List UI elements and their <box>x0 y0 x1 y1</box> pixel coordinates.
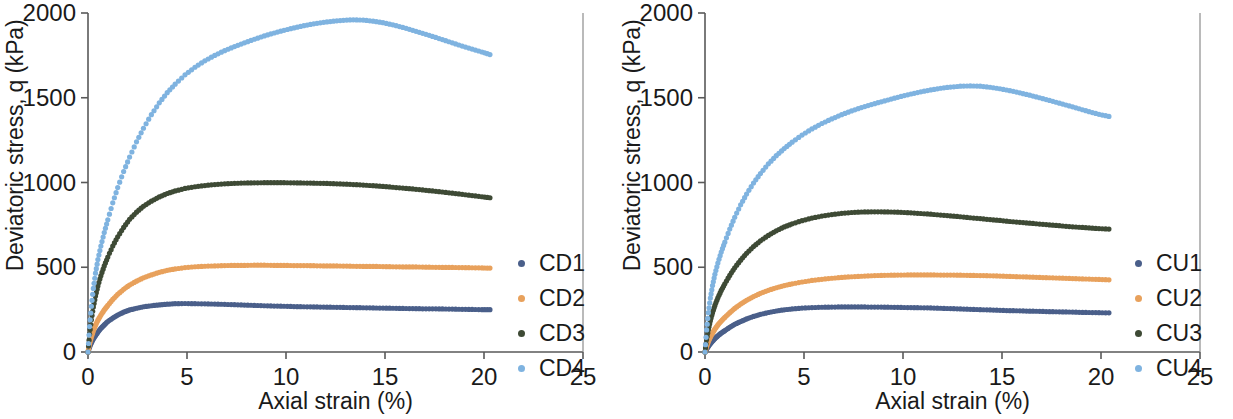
data-point <box>705 322 710 327</box>
data-point <box>89 298 94 303</box>
legend-item-cd4[interactable]: CD4 <box>518 351 585 386</box>
legend-marker-icon <box>518 295 525 302</box>
legend-label: CU3 <box>1156 322 1202 345</box>
y-tick-label: 1000 <box>23 169 76 196</box>
data-point <box>1106 310 1111 315</box>
data-point <box>87 324 92 329</box>
legend-label: CD2 <box>539 287 585 310</box>
legend-item-cu4[interactable]: CU4 <box>1135 351 1202 386</box>
data-point <box>127 154 132 159</box>
legend-item-cd1[interactable]: CD1 <box>518 246 585 281</box>
series-cu3 <box>702 209 1111 354</box>
data-point <box>487 266 492 271</box>
y-tick-label: 1000 <box>640 169 693 196</box>
data-point <box>105 217 110 222</box>
legend-label: CU2 <box>1156 287 1202 310</box>
data-point <box>146 117 151 122</box>
data-point <box>119 174 124 179</box>
x-tick-label: 15 <box>989 363 1016 390</box>
data-point <box>1106 277 1111 282</box>
data-point <box>703 342 708 347</box>
data-point <box>94 266 99 271</box>
data-point <box>85 349 90 354</box>
data-point <box>707 300 712 305</box>
data-point <box>136 135 141 140</box>
data-point <box>88 317 93 322</box>
data-point <box>93 271 98 276</box>
data-point <box>487 195 492 200</box>
data-point <box>92 276 97 281</box>
y-tick-label: 2000 <box>23 0 76 26</box>
legend-marker-icon <box>518 365 525 372</box>
data-point <box>89 304 94 309</box>
data-point <box>95 257 100 262</box>
x-tick-label: 5 <box>797 363 810 390</box>
legend-marker-icon <box>1135 330 1142 337</box>
data-point <box>90 292 95 297</box>
data-point <box>123 164 128 169</box>
y-tick-label: 0 <box>63 338 76 365</box>
x-tick-label: 20 <box>1088 363 1115 390</box>
data-point <box>129 149 134 154</box>
x-tick-label: 10 <box>273 363 300 390</box>
data-point <box>95 262 100 267</box>
data-point <box>706 310 711 315</box>
legend-marker-icon <box>518 330 525 337</box>
data-point <box>1106 114 1111 119</box>
triaxial-test-figure: Deviatoric stress, q (kPa) Axial strain … <box>0 0 1233 419</box>
x-tick-label: 15 <box>372 363 399 390</box>
legend-item-cd3[interactable]: CD3 <box>518 316 585 351</box>
data-point <box>109 206 114 211</box>
data-point <box>143 121 148 126</box>
legend: CU1CU2CU3CU4 <box>1135 246 1202 386</box>
legend-label: CU1 <box>1156 252 1202 275</box>
data-point <box>96 253 101 258</box>
data-point <box>132 144 137 149</box>
legend-marker-icon <box>518 260 525 267</box>
data-point <box>101 234 106 239</box>
y-tick-label: 1500 <box>640 84 693 111</box>
y-tick-label: 2000 <box>640 0 693 26</box>
data-point <box>141 126 146 131</box>
x-tick-label: 10 <box>890 363 917 390</box>
data-point <box>91 286 96 291</box>
legend-item-cu3[interactable]: CU3 <box>1135 316 1202 351</box>
series-cu1 <box>702 304 1111 354</box>
data-point <box>113 190 118 195</box>
data-point <box>703 335 708 340</box>
data-point <box>88 310 93 315</box>
data-point <box>86 341 91 346</box>
legend-item-cu1[interactable]: CU1 <box>1135 246 1202 281</box>
legend-marker-icon <box>1135 365 1142 372</box>
legend-label: CD3 <box>539 322 585 345</box>
data-point <box>487 307 492 312</box>
data-point <box>706 305 711 310</box>
data-point <box>487 52 492 57</box>
data-point <box>115 185 120 190</box>
data-point <box>99 239 104 244</box>
data-point <box>705 316 710 321</box>
x-tick-label: 0 <box>698 363 711 390</box>
data-point <box>134 139 139 144</box>
x-tick-label: 20 <box>471 363 498 390</box>
x-tick-label: 5 <box>180 363 193 390</box>
data-point <box>98 243 103 248</box>
legend-label: CU4 <box>1156 357 1202 380</box>
data-point <box>121 169 126 174</box>
data-point <box>1106 227 1111 232</box>
legend-label: CD1 <box>539 252 585 275</box>
legend-item-cd2[interactable]: CD2 <box>518 281 585 316</box>
drained-triaxial-panel: Deviatoric stress, q (kPa) Axial strain … <box>0 0 616 419</box>
y-tick-label: 500 <box>653 253 693 280</box>
legend-label: CD4 <box>539 357 585 380</box>
legend: CD1CD2CD3CD4 <box>518 246 585 386</box>
legend-item-cu2[interactable]: CU2 <box>1135 281 1202 316</box>
data-point <box>125 159 130 164</box>
legend-marker-icon <box>1135 260 1142 267</box>
data-point <box>139 130 144 135</box>
y-tick-label: 0 <box>680 338 693 365</box>
y-tick-label: 1500 <box>23 84 76 111</box>
data-point <box>112 195 117 200</box>
data-point <box>91 281 96 286</box>
data-point <box>97 248 102 253</box>
